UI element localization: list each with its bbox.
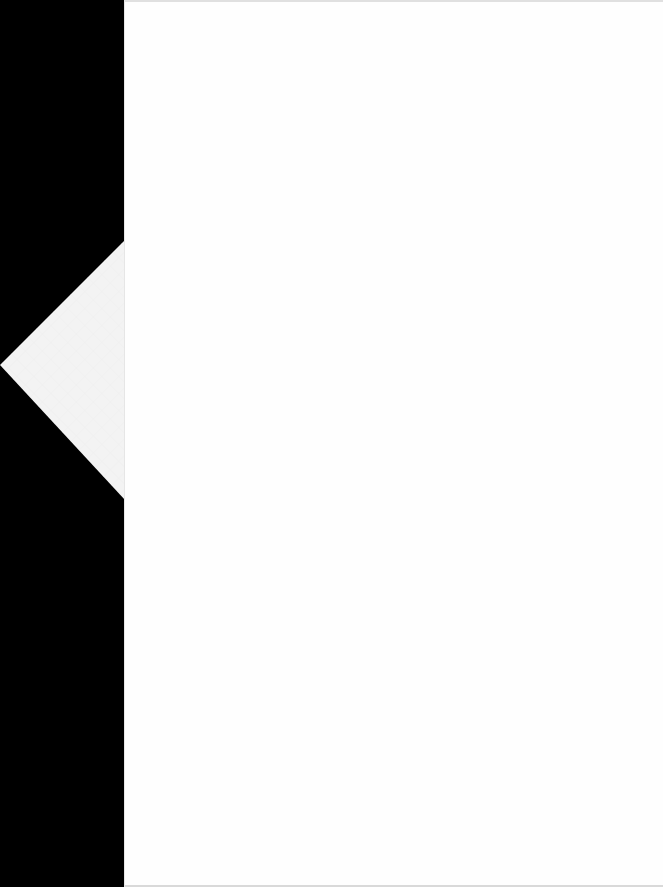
- blank-page: [124, 0, 663, 887]
- folded-tab-flap-icon: [0, 240, 125, 500]
- scanned-page-scene: [0, 0, 663, 887]
- page-content: [124, 0, 663, 887]
